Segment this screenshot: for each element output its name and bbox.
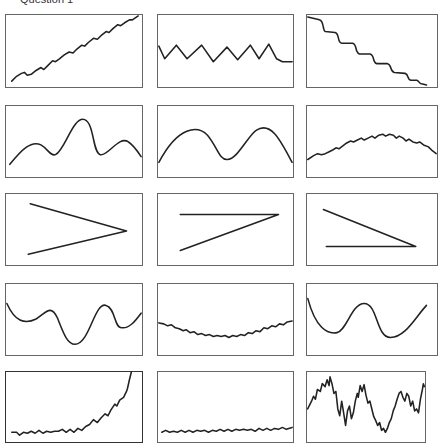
panel-r2c3 <box>306 105 438 178</box>
line-plot-converging-lines <box>6 194 142 265</box>
panel-r3c3 <box>306 193 438 266</box>
line-plot-exponential-rise <box>6 372 142 442</box>
line-plot-arch-wiggle <box>307 106 437 177</box>
line-plot-three-peaks <box>6 106 142 177</box>
line-plot-two-humps <box>158 106 293 177</box>
line-plot-descending-steps <box>307 15 437 87</box>
line-plot-flat-wiggle <box>158 372 293 442</box>
line-plot-shallow-u-wiggle <box>158 284 293 355</box>
panel-r1c3 <box>306 14 438 88</box>
panel-r4c1 <box>5 283 143 356</box>
panel-r5c1 <box>5 371 143 443</box>
line-plot-triangle-open <box>307 194 437 265</box>
panel-r3c2 <box>157 193 294 266</box>
line-plot-zigzag <box>158 15 293 87</box>
question-title: Question 1 <box>20 0 73 5</box>
panel-r5c3 <box>306 371 426 443</box>
line-plot-noisy-random <box>307 372 425 442</box>
panel-r2c2 <box>157 105 294 178</box>
line-plot-z-shape <box>158 194 293 265</box>
line-plot-w-shape <box>307 284 437 355</box>
line-plot-deep-trough-wave <box>6 284 142 355</box>
panel-r3c1 <box>5 193 143 266</box>
line-plot-rising-wiggle <box>6 15 142 87</box>
panel-r1c2 <box>157 14 294 88</box>
panel-r1c1 <box>5 14 143 88</box>
panel-r4c3 <box>306 283 438 356</box>
panel-r4c2 <box>157 283 294 356</box>
panel-r5c2 <box>157 371 294 443</box>
panel-r2c1 <box>5 105 143 178</box>
